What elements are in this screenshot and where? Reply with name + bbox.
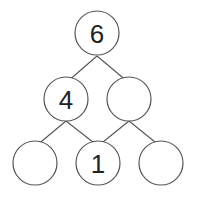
node-bottom-right (139, 141, 183, 185)
node-top-value: 6 (90, 19, 104, 49)
node-top: 6 (75, 11, 119, 55)
node-mid-left-value: 4 (59, 85, 73, 115)
node-bottom-middle-value: 1 (91, 149, 105, 179)
node-bottom-middle: 1 (76, 141, 120, 185)
node-mid-left: 4 (44, 77, 88, 121)
node-bottom-left (13, 141, 57, 185)
number-tree-diagram: 6 4 1 (0, 0, 198, 220)
node-mid-right (107, 77, 151, 121)
